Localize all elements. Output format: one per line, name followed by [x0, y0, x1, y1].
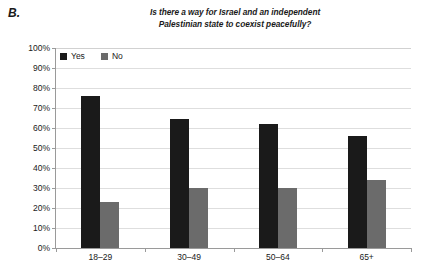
chart-title: Is there a way for Israel and an indepen…	[90, 7, 380, 30]
x-axis-tick	[322, 248, 323, 252]
bar-yes-30-49[interactable]	[170, 119, 189, 248]
bar-group	[81, 48, 119, 248]
bar-yes-18-29[interactable]	[81, 96, 100, 248]
y-axis-tick-label: 70%	[33, 103, 50, 113]
legend-item-no[interactable]: No	[101, 51, 123, 61]
bar-yes-50-64[interactable]	[259, 124, 278, 248]
y-axis-tick-label: 10%	[33, 223, 50, 233]
legend-swatch-yes-icon	[60, 53, 67, 60]
bar-no-65+[interactable]	[367, 180, 386, 248]
bar-no-50-64[interactable]	[278, 188, 297, 248]
bar-no-30-49[interactable]	[189, 188, 208, 248]
y-axis-tick-label: 20%	[33, 203, 50, 213]
x-axis-label-65+: 65+	[359, 252, 373, 262]
x-axis-tick	[56, 248, 57, 252]
chart-title-line-1: Is there a way for Israel and an indepen…	[90, 7, 380, 19]
y-axis-tick-label: 90%	[33, 63, 50, 73]
chart-title-line-2: Palestinian state to coexist peacefully?	[90, 19, 380, 31]
bar-group	[348, 48, 386, 248]
y-axis-tick-label: 100%	[28, 43, 50, 53]
legend-swatch-no-icon	[101, 53, 108, 60]
y-axis-tick-label: 50%	[33, 143, 50, 153]
chart-legend: YesNo	[60, 51, 123, 61]
x-axis-label-18-29: 18–29	[89, 252, 113, 262]
x-axis-tick	[234, 248, 235, 252]
x-axis-label-30-49: 30–49	[177, 252, 201, 262]
plot-area: 0%10%20%30%40%50%60%70%80%90%100% 18–293…	[56, 48, 411, 248]
bar-no-18-29[interactable]	[100, 202, 119, 248]
figure-caption-cropped	[12, 269, 412, 277]
bar-group	[170, 48, 208, 248]
legend-item-yes[interactable]: Yes	[60, 51, 85, 61]
x-axis-label-50-64: 50–64	[266, 252, 290, 262]
bars-layer	[56, 48, 411, 248]
x-axis-tick	[411, 248, 412, 252]
y-axis-tick-label: 80%	[33, 83, 50, 93]
bar-group	[259, 48, 297, 248]
y-axis-tick-label: 30%	[33, 183, 50, 193]
y-axis-tick-label: 0%	[38, 243, 50, 253]
bar-yes-65+[interactable]	[348, 136, 367, 248]
y-axis-tick-label: 40%	[33, 163, 50, 173]
panel-label: B.	[8, 6, 20, 20]
x-axis-tick	[145, 248, 146, 252]
legend-label: No	[112, 51, 123, 61]
y-axis-tick-label: 60%	[33, 123, 50, 133]
legend-label: Yes	[71, 51, 85, 61]
